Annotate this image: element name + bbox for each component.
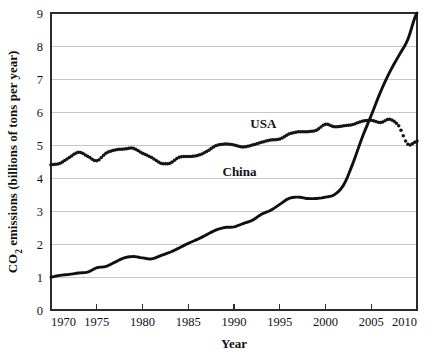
usa-marker [397,124,401,128]
chart-canvas: 197019751980198519901995200020052010 012… [0,0,434,355]
x-tick-label-1975: 1975 [84,315,109,329]
y-tick-label-5: 5 [37,139,43,153]
x-tick-label-1985: 1985 [176,315,201,329]
x-tick-label-1980: 1980 [130,315,155,329]
y-tick-label-4: 4 [37,172,44,186]
x-tick-label-2010: 2010 [392,315,417,329]
x-tick-label-1990: 1990 [222,315,247,329]
usa-marker [395,121,399,125]
usa-marker [404,139,408,143]
co2-emissions-chart: 197019751980198519901995200020052010 012… [0,0,434,355]
y-axis-title-prefix: CO [5,254,20,274]
y-tick-label-2: 2 [37,238,43,252]
series-usa [49,118,419,167]
y-tick-label-8: 8 [37,40,43,54]
usa-marker [415,139,419,143]
y-tick-label-0: 0 [37,304,43,318]
usa-marker [402,134,406,138]
y-tick-label-7: 7 [37,73,43,87]
y-tick-labels: 0123456789 [37,7,44,318]
x-tick-label-1970: 1970 [51,315,76,329]
x-axis-title: Year [221,336,247,351]
gridlines [51,46,417,277]
x-tick-labels: 197019751980198519901995200020052010 [51,315,417,329]
y-tick-label-1: 1 [37,271,43,285]
x-tick-label-2000: 2000 [313,315,338,329]
y-axis-title-suffix: emissions (billions of tons per year) [5,51,20,249]
series-label-china: China [223,164,257,179]
y-axis-title: CO2 emissions (billions of tons per year… [5,51,24,274]
x-tick-label-1995: 1995 [267,315,292,329]
x-tick-label-2005: 2005 [359,315,384,329]
series-annotations: USAChina [223,116,277,180]
y-tick-label-3: 3 [37,205,43,219]
usa-marker [399,128,403,132]
series-label-usa: USA [250,116,277,131]
y-tick-label-6: 6 [37,106,43,120]
y-tick-label-9: 9 [37,7,43,21]
